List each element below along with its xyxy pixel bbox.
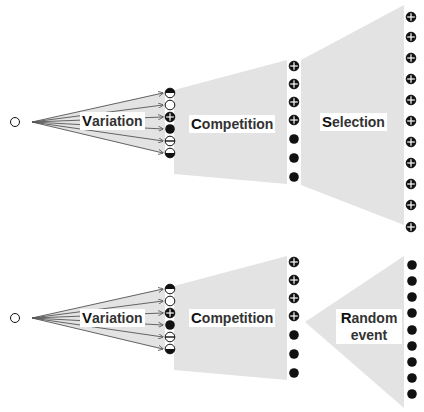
allele-symbol-plus [165,308,175,318]
allele-symbol-half-top [165,88,175,98]
allele-symbol-filled [407,276,417,286]
allele-symbol-plus [406,179,416,189]
allele-symbol-empty [165,100,175,110]
allele-symbol-filled [289,134,299,144]
allele-symbol-plus [289,257,299,267]
allele-symbol-minus [165,136,175,146]
allele-symbol-minus [165,332,175,342]
allele-symbol-filled [407,260,417,270]
allele-symbol-plus [289,61,299,71]
allele-symbol-plus [406,116,416,126]
allele-symbol-plus [406,12,416,22]
allele-symbol-filled [407,389,417,399]
allele-symbol-plus [406,32,416,42]
variation-label-bottom: Variation [80,309,145,327]
allele-symbol-filled [407,341,417,351]
allele-symbol-half-bottom [165,148,175,158]
allele-symbol-filled [407,292,417,302]
allele-symbol-filled [289,349,299,359]
origin-individual [11,118,20,127]
allele-symbol-filled [407,373,417,383]
diagram-canvas [0,0,424,412]
competition-label-top: Competition [189,115,275,133]
origin-individual [11,314,20,323]
allele-symbol-filled [289,153,299,163]
selection-label: Selection [320,113,387,131]
allele-symbol-filled [407,308,417,318]
allele-symbol-plus [289,97,299,107]
allele-symbol-empty [165,296,175,306]
allele-symbol-plus [289,293,299,303]
allele-symbol-half-top [165,284,175,294]
allele-symbol-plus [165,112,175,122]
allele-symbol-plus [406,222,416,232]
variation-label-top: Variation [80,112,145,130]
allele-symbol-filled [407,357,417,367]
allele-symbol-plus [406,53,416,63]
allele-symbol-plus [406,158,416,168]
allele-symbol-plus [406,137,416,147]
allele-symbol-plus [406,74,416,84]
allele-symbol-filled [165,320,175,330]
allele-symbol-filled [289,330,299,340]
allele-symbol-plus [406,95,416,105]
allele-symbol-plus [289,275,299,285]
allele-symbol-filled [289,368,299,378]
allele-symbol-plus [289,115,299,125]
allele-symbol-half-bottom [165,344,175,354]
competition-label-bottom: Competition [189,309,275,327]
allele-symbol-filled [407,325,417,335]
allele-symbol-plus [289,79,299,89]
random-event-label: Random event [336,309,402,344]
allele-symbol-filled [165,124,175,134]
allele-symbol-plus [406,200,416,210]
allele-symbol-plus [289,311,299,321]
allele-symbol-filled [289,172,299,182]
